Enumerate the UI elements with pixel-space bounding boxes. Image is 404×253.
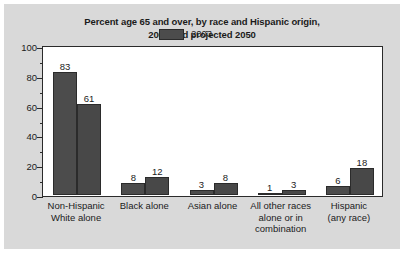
x-category-label-line: alone or in [250,212,311,224]
y-tick-label: 40 [26,131,37,142]
y-tick-minor [40,123,44,124]
x-category-label: Hispanic(any race) [328,200,371,223]
bar-value-label: 8 [223,172,228,183]
y-tick-label: 0 [32,190,37,201]
bar-2050 [214,183,238,195]
legend-swatch-2003-icon [159,29,184,40]
x-category-label-line: Non-Hispanic [48,200,105,212]
bar-value-label: 3 [291,179,296,190]
x-category-label: Black alone [120,200,169,212]
y-tick-major [37,48,43,49]
bar-2050 [282,190,306,194]
x-category-label-line: (any race) [328,212,371,224]
x-category-label: Asian alone [188,200,238,212]
bar-2003 [190,190,214,194]
bar-value-label: 1 [267,182,272,193]
y-tick-major [37,197,43,198]
y-tick-label: 60 [26,101,37,112]
bar-2050 [77,104,101,194]
y-tick-minor [40,182,44,183]
bar-value-label: 61 [84,93,95,104]
bar-2050 [145,177,169,195]
chart-title-line-1: Percent age 65 and over, by race and His… [4,16,400,29]
legend-label-2003: 2003 [191,28,212,39]
plot-area: 83618123813618 [42,46,383,197]
y-tick-major [37,167,43,168]
y-tick-label: 20 [26,160,37,171]
y-tick-label: 100 [21,42,37,53]
x-category-label-line: All other races [250,200,311,212]
x-category-label-line: Asian alone [188,200,238,212]
bar-value-label: 18 [357,157,368,168]
bar-value-label: 83 [60,61,71,72]
bar-value-label: 3 [199,179,204,190]
bar-2003 [121,183,145,195]
y-tick-label: 80 [26,72,37,83]
x-axis: Non-HispanicWhite aloneBlack aloneAsian … [42,200,383,248]
chart-figure: Percent age 65 and over, by race and His… [4,4,400,249]
x-category-label-line: combination [250,223,311,235]
x-category-label: Non-HispanicWhite alone [48,200,105,223]
y-tick-major [37,108,43,109]
x-category-label: All other racesalone or incombination [250,200,311,235]
y-tick-minor [40,93,44,94]
y-axis: 020406080100 [4,4,42,199]
bar-2003 [53,72,77,195]
x-category-label-line: Black alone [120,200,169,212]
bar-2050 [350,168,374,195]
bar-value-label: 6 [335,175,340,186]
bar-value-label: 8 [131,172,136,183]
x-category-label-line: White alone [48,212,105,224]
y-tick-major [37,137,43,138]
y-tick-minor [40,63,44,64]
y-tick-minor [40,152,44,153]
bar-value-label: 12 [152,166,163,177]
y-tick-major [37,78,43,79]
bar-2003 [326,186,350,195]
x-category-label-line: Hispanic [328,200,371,212]
